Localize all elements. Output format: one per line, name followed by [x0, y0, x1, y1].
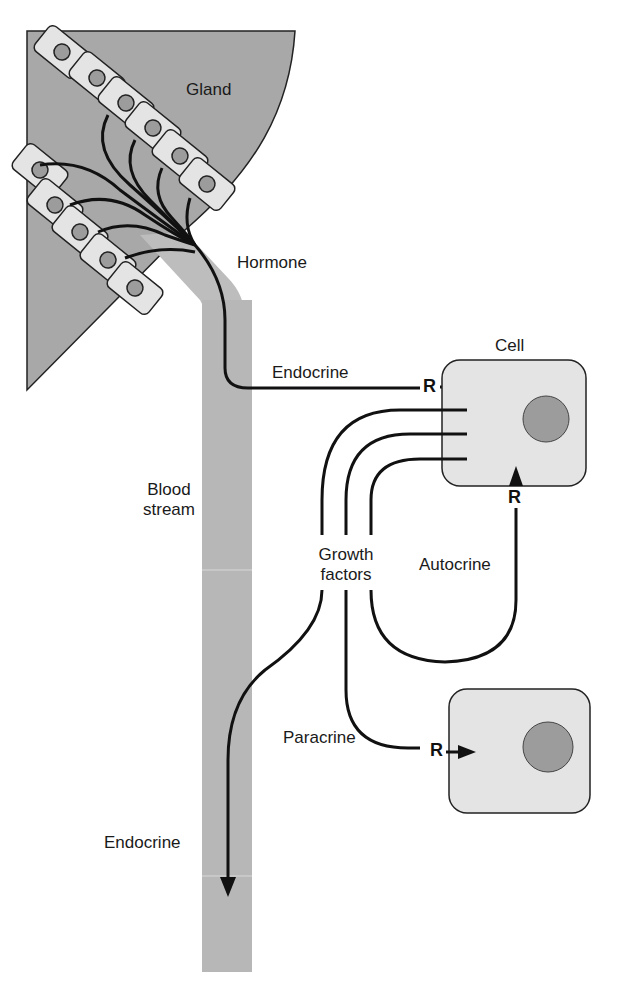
- label-factors: factors: [306, 565, 386, 585]
- label-paracrine: Paracrine: [283, 728, 356, 748]
- label-autocrine: Autocrine: [419, 555, 491, 575]
- label-cell: Cell: [495, 336, 524, 356]
- label-growth: Growth: [306, 545, 386, 565]
- label-endocrine-bottom: Endocrine: [104, 833, 181, 853]
- signaling-diagram: [0, 0, 617, 995]
- label-blood: Blood: [143, 480, 195, 500]
- receptor-endocrine: R: [423, 376, 436, 397]
- label-endocrine-top: Endocrine: [272, 363, 349, 383]
- label-growth-factors: Growth factors: [306, 545, 386, 584]
- paracrine-cell-nucleus: [523, 722, 573, 772]
- receptor-paracrine: R: [430, 740, 443, 761]
- target-cell-nucleus: [523, 396, 569, 442]
- label-gland: Gland: [186, 80, 231, 100]
- receptor-autocrine: R: [508, 487, 521, 508]
- label-blood-stream: Blood stream: [143, 480, 195, 519]
- label-hormone: Hormone: [237, 253, 307, 273]
- label-stream: stream: [143, 500, 195, 520]
